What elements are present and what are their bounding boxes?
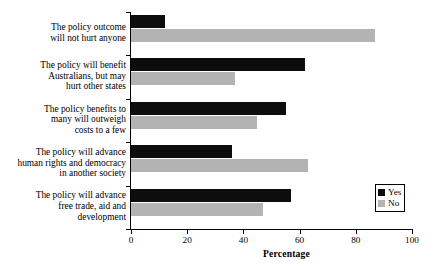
x-axis-tick: [300, 230, 301, 234]
category-label: The policy will advance free trade, aid …: [6, 190, 126, 222]
category-label: The policy will benefit Australians, but…: [6, 60, 126, 92]
chart-legend: YesNo: [375, 184, 405, 212]
bar-yes: [131, 189, 291, 202]
x-axis-title: Percentage: [0, 248, 433, 259]
x-axis-tick: [131, 230, 132, 234]
x-axis-tick-label: 40: [239, 235, 248, 245]
legend-label: Yes: [388, 187, 401, 198]
x-axis-tick-label: 100: [405, 235, 419, 245]
category-label: The policy outcome will not hurt anyone: [6, 22, 126, 43]
x-axis-tick: [187, 230, 188, 234]
bar-yes: [131, 58, 305, 71]
x-axis-tick: [412, 230, 413, 234]
x-axis-line: [130, 229, 413, 230]
legend-swatch-icon: [378, 200, 385, 207]
bar-no: [131, 159, 308, 172]
bar-no: [131, 203, 263, 216]
bar-no: [131, 116, 257, 129]
legend-item-yes: Yes: [378, 187, 401, 198]
x-axis-tick-label: 80: [351, 235, 360, 245]
bar-no: [131, 72, 235, 85]
category-label: The policy benefits to many will outweig…: [6, 104, 126, 136]
x-axis-tick-label: 20: [183, 235, 192, 245]
category-label: The policy will advance human rights and…: [6, 147, 126, 179]
x-axis-tick: [356, 230, 357, 234]
bar-yes: [131, 102, 286, 115]
bar-chart: The policy outcome will not hurt anyoneT…: [0, 0, 433, 267]
x-axis-tick-label: 0: [129, 235, 134, 245]
legend-label: No: [388, 198, 399, 209]
plot-area: [131, 12, 412, 229]
bar-yes: [131, 15, 165, 28]
legend-item-no: No: [378, 198, 401, 209]
x-axis-tick: [243, 230, 244, 234]
legend-swatch-icon: [378, 189, 385, 196]
bar-yes: [131, 145, 232, 158]
bar-no: [131, 29, 375, 42]
x-axis-tick-label: 60: [295, 235, 304, 245]
